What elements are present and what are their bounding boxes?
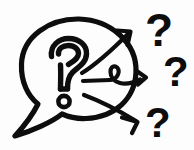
middle-arrow-shaft	[83, 80, 110, 81]
top-arrow	[82, 31, 131, 74]
illustration-canvas: A speech bubble with a question mark ins…	[0, 0, 194, 150]
middle-question-mark: ?	[163, 48, 189, 95]
question-bubble-illustration: ? ? ?	[0, 0, 194, 150]
bubble-question-mark-dot	[58, 96, 69, 107]
bottom-question-mark: ?	[145, 99, 171, 146]
bottom-arrow-head	[122, 118, 138, 134]
bubble-question-mark-inner-notch	[58, 46, 78, 65]
